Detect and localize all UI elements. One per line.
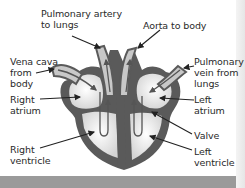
label-left-ventricle: Left ventricle [194, 146, 235, 168]
footer-bar [0, 176, 236, 188]
label-right-ventricle: Right ventricle [10, 144, 51, 166]
label-pulmonary-artery: Pulmonary artery to lungs [41, 8, 122, 30]
label-aorta: Aorta to body [143, 20, 206, 31]
label-right-atrium: Right atrium [10, 94, 41, 116]
label-vena-cava: Vena cava from body [10, 56, 58, 89]
label-pulmonary-vein: Pulmonary vein from lungs [194, 56, 244, 89]
label-left-atrium: Left atrium [194, 94, 225, 116]
label-valve: Valve [194, 130, 219, 141]
